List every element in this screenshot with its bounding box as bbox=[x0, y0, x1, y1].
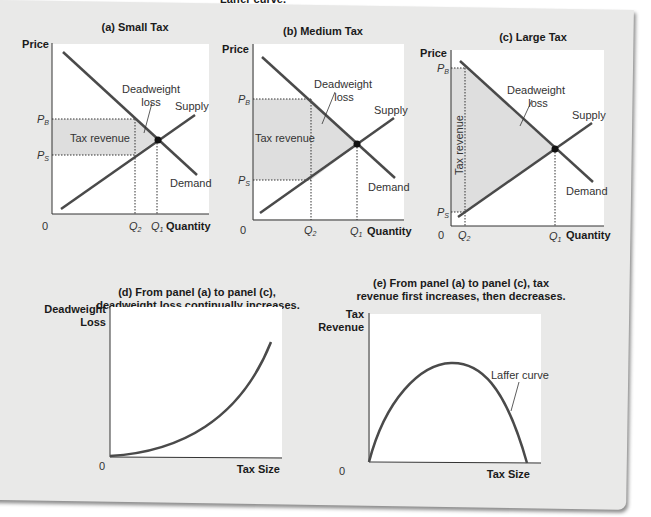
panel-b-q1: Q1 bbox=[350, 225, 363, 238]
tax-figure: Laffer curve. (a) Small Tax Price Quanti… bbox=[0, 0, 651, 517]
svg-text:revenue first increases, then: revenue first increases, then decreases. bbox=[356, 290, 565, 302]
panel-c-pb: PB bbox=[437, 62, 449, 75]
panel-a-q2: Q2 bbox=[129, 220, 142, 233]
panel-b-demand-label: Demand bbox=[368, 181, 410, 193]
panel-b-pb: PB bbox=[238, 93, 250, 106]
panel-b-q2: Q2 bbox=[304, 224, 317, 237]
panel-c-ps: PS bbox=[437, 206, 449, 219]
panel-a-tax-revenue-label: Tax revenue bbox=[70, 132, 130, 144]
clipped-caption: Laffer curve. bbox=[220, 0, 286, 5]
panel-a-supply-label: Supply bbox=[175, 100, 209, 112]
panel-d-deadweight-loss: (d) From panel (a) to panel (c), deadwei… bbox=[44, 286, 300, 475]
panel-a-title: (a) Small Tax bbox=[101, 21, 169, 33]
panel-b-ps: PS bbox=[238, 174, 250, 187]
panel-c-demand-label: Demand bbox=[566, 185, 608, 197]
panel-c-q1: Q1 bbox=[549, 230, 562, 243]
panel-c-x-axis-label: Quantity bbox=[566, 229, 611, 241]
panel-d-plot-area bbox=[110, 307, 282, 457]
panel-c-equilibrium-point bbox=[552, 146, 559, 153]
panel-b-dwl-label: Deadweight bbox=[314, 78, 372, 90]
svg-text:loss: loss bbox=[141, 96, 161, 108]
panel-c-dwl-label: Deadweight bbox=[507, 84, 565, 96]
panel-d-origin: 0 bbox=[99, 460, 105, 472]
panel-b-x-axis-label: Quantity bbox=[367, 225, 412, 237]
panel-a-equilibrium-point bbox=[155, 137, 162, 144]
panel-c-supply-label: Supply bbox=[572, 109, 606, 121]
panel-a-demand-label: Demand bbox=[170, 177, 212, 189]
panel-c-title: (c) Large Tax bbox=[499, 31, 568, 43]
panel-a-dwl-label: Deadweight bbox=[122, 83, 180, 95]
panel-d-title: (d) From panel (a) to panel (c), bbox=[118, 286, 276, 298]
panel-b-equilibrium-point bbox=[354, 141, 361, 148]
panel-a-x-axis-label: Quantity bbox=[166, 220, 211, 232]
panel-e-y-axis-label: Tax bbox=[346, 308, 365, 320]
panel-c-q2: Q2 bbox=[458, 229, 471, 242]
panel-b-tax-revenue-label: Tax revenue bbox=[255, 132, 315, 144]
panel-e-plot-area bbox=[370, 314, 541, 463]
panel-a-q1: Q1 bbox=[151, 220, 164, 233]
panel-e-origin: 0 bbox=[339, 465, 345, 477]
panel-a-ps: PS bbox=[37, 149, 49, 162]
panel-c-y-axis-label: Price bbox=[420, 47, 447, 59]
panel-b-origin: 0 bbox=[240, 224, 246, 236]
svg-text:loss: loss bbox=[528, 97, 548, 109]
panel-a-origin: 0 bbox=[42, 220, 48, 232]
panel-b-supply-label: Supply bbox=[374, 104, 408, 116]
panel-e-x-axis-label: Tax Size bbox=[487, 468, 530, 480]
svg-text:Loss: Loss bbox=[80, 316, 106, 328]
panel-a-y-axis-label: Price bbox=[22, 38, 49, 50]
panel-b-title: (b) Medium Tax bbox=[283, 25, 364, 37]
svg-text:Revenue: Revenue bbox=[318, 321, 364, 333]
panel-a-pb: PB bbox=[37, 113, 49, 126]
panel-c-tax-revenue-label: Tax revenue bbox=[453, 115, 465, 175]
panel-d-x-axis-label: Tax Size bbox=[237, 463, 280, 475]
panel-c-large-tax: (c) Large Tax Price Quantity 0 PB PS Q2 … bbox=[420, 31, 611, 243]
svg-text:loss: loss bbox=[334, 91, 354, 103]
panel-a-small-tax: (a) Small Tax Price Quantity 0 PB PS Q2 … bbox=[22, 21, 212, 233]
panel-e-tax-revenue: (e) From panel (a) to panel (c), tax rev… bbox=[318, 277, 565, 480]
panel-c-origin: 0 bbox=[438, 229, 444, 241]
panel-d-y-axis-label: Deadweight bbox=[44, 303, 106, 315]
panel-e-laffer-curve-label: Laffer curve bbox=[491, 369, 549, 381]
panel-b-medium-tax: (b) Medium Tax Price Quantity 0 PB PS Q2… bbox=[222, 25, 412, 238]
panel-e-title: (e) From panel (a) to panel (c), tax bbox=[373, 277, 550, 289]
panel-b-y-axis-label: Price bbox=[222, 43, 249, 55]
